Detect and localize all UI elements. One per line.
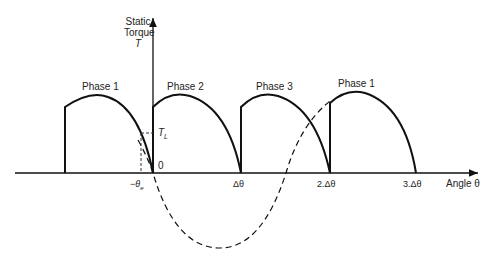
tick-delta-theta: Δθ — [233, 180, 244, 189]
phase-3-label: Phase 3 — [256, 82, 293, 92]
tick-neg-theta-e: −θe — [130, 180, 143, 191]
y-axis-label-t: T — [124, 39, 152, 49]
phase-2-label: Phase 2 — [167, 82, 204, 92]
phase-1-left-curve — [65, 95, 153, 173]
tick-two-delta-theta: 2.Δθ — [317, 180, 336, 189]
y-axis-label-static: Static — [124, 17, 152, 27]
phase-1-left-label: Phase 1 — [82, 82, 119, 92]
phase-1-right-label: Phase 1 — [338, 79, 375, 89]
x-axis-label: Angle θ — [446, 179, 480, 189]
load-torque-label: TL — [158, 128, 168, 140]
origin-zero-label: 0 — [158, 161, 164, 171]
tick-three-delta-theta: 3.Δθ — [403, 180, 422, 189]
y-axis-label-torque: Torque — [124, 28, 152, 38]
phase-3-curve — [241, 94, 330, 173]
phase-1-right-curve — [330, 92, 416, 173]
torque-angle-diagram — [0, 0, 491, 264]
phase-1-dashed-sinusoid — [138, 101, 330, 248]
